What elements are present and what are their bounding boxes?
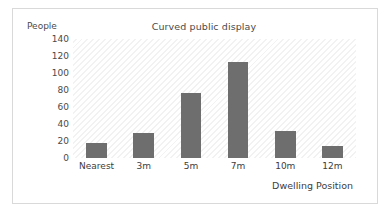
y-axis-tick-label: 20 (27, 136, 69, 146)
y-axis-tick-label: 80 (27, 85, 69, 95)
bar-slot (73, 39, 120, 158)
chart-frame: People Curved public display 14012010080… (12, 8, 378, 204)
y-axis-tick-label: 0 (27, 153, 69, 163)
y-axis-tick-label: 60 (27, 102, 69, 112)
bar-slot (120, 39, 167, 158)
plot-area (73, 39, 356, 158)
x-axis-tick-label: 12m (309, 161, 356, 171)
x-axis-title: Dwelling Position (13, 180, 377, 191)
bar-slot (215, 39, 262, 158)
bar[interactable] (133, 133, 154, 158)
bar-series (73, 39, 356, 158)
bar[interactable] (181, 93, 202, 158)
x-axis-tick-label: Nearest (73, 161, 120, 171)
y-axis-tick-label: 120 (27, 51, 69, 61)
x-axis-tick-label: 7m (215, 161, 262, 171)
x-axis-tick-label: 10m (262, 161, 309, 171)
x-axis-tick-label: 3m (120, 161, 167, 171)
bar[interactable] (275, 131, 296, 158)
x-axis-tick-labels: Nearest3m5m7m10m12m (73, 161, 356, 171)
x-axis-tick-label: 5m (167, 161, 214, 171)
bar[interactable] (228, 62, 249, 158)
chart-title: Curved public display (13, 21, 377, 32)
bar-slot (167, 39, 214, 158)
bar[interactable] (86, 143, 107, 158)
bar-slot (309, 39, 356, 158)
y-axis-tick-label: 40 (27, 119, 69, 129)
y-axis-tick-label: 100 (27, 68, 69, 78)
y-axis-tick-labels: 140120100806040200 (27, 39, 69, 158)
bar[interactable] (322, 146, 343, 158)
y-axis-tick-label: 140 (27, 34, 69, 44)
bar-slot (262, 39, 309, 158)
